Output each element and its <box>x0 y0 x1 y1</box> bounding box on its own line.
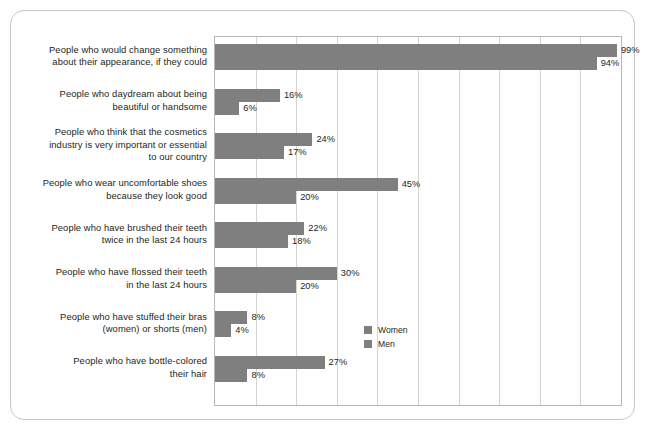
plot-area: 99%94%16%6%24%17%45%20%22%18%30%20%8%4%2… <box>214 36 622 406</box>
category-label: People who would change somethingabout t… <box>25 44 207 69</box>
bar-women-1 <box>215 89 280 102</box>
bar-women-3 <box>215 178 398 191</box>
legend-item-women[interactable]: Women <box>364 322 434 336</box>
category-label-line: twice in the last 24 hours <box>25 234 207 246</box>
category-label: People who have brushed their teethtwice… <box>25 222 207 247</box>
bar-value-label: 99% <box>617 44 640 57</box>
bar-men-0 <box>215 57 597 70</box>
category-label-line: People who daydream about being <box>25 88 207 100</box>
category-label-line: People who have bottle-colored <box>25 355 207 367</box>
category-label: People who daydream about beingbeautiful… <box>25 88 207 113</box>
category-label-line: their hair <box>25 368 207 380</box>
category-label-line: (women) or shorts (men) <box>25 323 207 335</box>
gridline <box>499 37 500 405</box>
category-label-line: People who have brushed their teeth <box>25 222 207 234</box>
bar-men-2 <box>215 146 284 159</box>
bar-value-label: 27% <box>325 356 348 369</box>
bar-women-5 <box>215 267 337 280</box>
bar-value-label: 16% <box>280 89 303 102</box>
category-label: People who have bottle-coloredtheir hair <box>25 355 207 380</box>
bar-value-label: 45% <box>398 178 421 191</box>
bar-value-label: 18% <box>288 235 311 248</box>
category-label-line: beautiful or handsome <box>25 101 207 113</box>
category-label: People who have stuffed their bras(women… <box>25 311 207 336</box>
category-labels: People who would change somethingabout t… <box>25 26 207 411</box>
category-label-line: People who have flossed their teeth <box>25 266 207 278</box>
legend-label: Men <box>378 337 395 351</box>
bar-women-0 <box>215 44 617 57</box>
bar-value-label: 94% <box>597 57 620 70</box>
bar-women-4 <box>215 222 304 235</box>
bar-value-label: 22% <box>304 222 327 235</box>
category-label-line: in the last 24 hours <box>25 279 207 291</box>
bar-women-7 <box>215 356 325 369</box>
category-label-line: about their appearance, if they could <box>25 56 207 68</box>
category-label-line: industry is very important or essential <box>25 139 207 151</box>
bar-value-label: 30% <box>337 267 360 280</box>
bar-value-label: 20% <box>296 280 319 293</box>
bar-men-7 <box>215 369 247 382</box>
chart-legend: WomenMen <box>364 322 434 350</box>
bar-value-label: 8% <box>247 369 264 382</box>
bar-men-1 <box>215 102 239 115</box>
bar-value-label: 17% <box>284 146 307 159</box>
bar-women-6 <box>215 311 247 324</box>
bar-women-2 <box>215 133 312 146</box>
bar-value-label: 20% <box>296 191 319 204</box>
bar-men-6 <box>215 324 231 337</box>
category-label-line: People who would change something <box>25 44 207 56</box>
legend-swatch-icon <box>364 326 372 334</box>
category-label-line: because they look good <box>25 190 207 202</box>
bar-men-5 <box>215 280 296 293</box>
bar-men-3 <box>215 191 296 204</box>
category-label-line: People who wear uncomfortable shoes <box>25 177 207 189</box>
legend-label: Women <box>378 323 407 337</box>
gridline <box>580 37 581 405</box>
gridline <box>337 37 338 405</box>
category-label-line: to our country <box>25 151 207 163</box>
category-label-line: People who think that the cosmetics <box>25 126 207 138</box>
category-label: People who think that the cosmeticsindus… <box>25 126 207 163</box>
bar-value-label: 4% <box>231 324 248 337</box>
legend-item-men[interactable]: Men <box>364 336 434 350</box>
chart-figure: People who would change somethingabout t… <box>10 10 635 420</box>
bar-value-label: 8% <box>247 311 264 324</box>
category-label-line: People who have stuffed their bras <box>25 311 207 323</box>
bar-value-label: 6% <box>239 102 256 115</box>
gridline <box>459 37 460 405</box>
bar-men-4 <box>215 235 288 248</box>
bar-value-label: 24% <box>312 133 335 146</box>
category-label: People who have flossed their teethin th… <box>25 266 207 291</box>
legend-swatch-icon <box>364 340 372 348</box>
gridline <box>540 37 541 405</box>
category-label: People who wear uncomfortable shoesbecau… <box>25 177 207 202</box>
